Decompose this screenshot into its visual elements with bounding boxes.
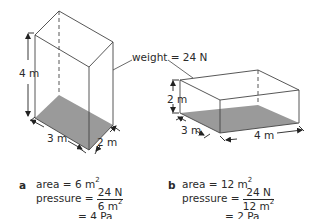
box-a-length-label: 3 m [47, 133, 67, 144]
box-b-height-label: 2 m [167, 94, 187, 105]
calc-a-fraction: 24 N 6 m2 [97, 187, 124, 211]
calc-a-letter: a [19, 180, 26, 191]
calc-b-pressure: pressure = 24 N 12 m2 [182, 187, 274, 211]
box-a [35, 11, 113, 150]
calc-a-result: = 4 Pa [78, 211, 112, 219]
calc-a-pressure-label: pressure = [36, 192, 94, 204]
calc-b-letter: b [168, 180, 176, 191]
calc-a-area-exp: 2 [95, 176, 99, 184]
calc-b-result: = 2 Pa [225, 211, 259, 219]
calc-a-denominator-exp: 2 [118, 198, 122, 206]
calc-b-area-exp: 2 [248, 176, 252, 184]
box-b-width-label: 3 m [181, 125, 201, 136]
calc-b-pressure-label: pressure = [182, 192, 240, 204]
calc-a-pressure: pressure = 24 N 6 m2 [36, 187, 123, 211]
calc-b-fraction: 24 N 12 m2 [243, 187, 274, 211]
calc-b-denominator-exp: 2 [270, 198, 274, 206]
weight-label: weight = 24 N [132, 52, 207, 63]
box-b-length-label: 4 m [254, 130, 274, 141]
box-a-height-label: 4 m [19, 68, 39, 79]
box-a-width-label: 2 m [97, 137, 117, 148]
